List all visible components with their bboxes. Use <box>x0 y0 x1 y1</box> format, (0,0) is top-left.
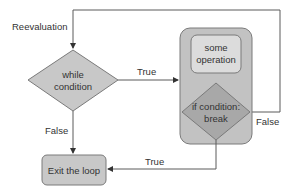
while-true-label: True <box>137 66 156 77</box>
while-condition-line2: condition <box>54 81 92 92</box>
while-false-label: False <box>45 125 68 136</box>
break-true-label: True <box>145 156 164 167</box>
flowchart: while condition some operation if condit… <box>0 0 299 190</box>
some-operation-line1: some <box>204 42 227 53</box>
some-operation-line2: operation <box>196 54 236 65</box>
if-break-line1: if condition: <box>192 101 240 112</box>
if-break-line2: break <box>204 113 228 124</box>
while-condition-line1: while <box>61 69 84 80</box>
break-false-label: False <box>256 116 279 127</box>
reevaluation-label: Reevaluation <box>12 21 67 32</box>
exit-loop-label: Exit the loop <box>48 165 100 176</box>
